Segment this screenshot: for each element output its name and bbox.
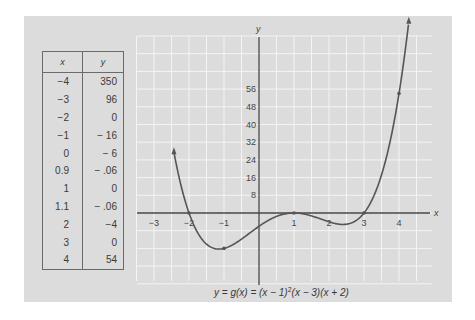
x-axis-label: x (433, 208, 439, 218)
caption-lhs: y = g(x) = (x − 1) (214, 287, 288, 298)
data-point (397, 92, 401, 96)
data-point (362, 211, 366, 215)
x-tick-label: −1 (219, 218, 229, 228)
y-tick-label: 56 (246, 84, 256, 94)
y-tick-label: 24 (246, 155, 256, 165)
y-tick-label: 48 (246, 102, 256, 112)
data-point (292, 211, 296, 215)
curve-arrow-left-icon (171, 147, 176, 154)
x-tick-label: 3 (361, 218, 366, 228)
function-curve (174, 25, 409, 249)
data-point (187, 211, 191, 215)
x-tick-label: 4 (396, 218, 401, 228)
curve-arrow-right-icon (406, 17, 411, 24)
y-tick-label: 8 (251, 190, 256, 200)
y-tick-label: 16 (246, 173, 256, 183)
x-tick-label: 1 (291, 218, 296, 228)
data-point (222, 247, 226, 251)
y-tick-label: 32 (246, 137, 256, 147)
x-tick-label: −3 (149, 218, 159, 228)
y-axis-label: y (255, 24, 261, 34)
y-tick-label: 40 (246, 120, 256, 130)
function-graph: xy−3−2−112348162432404856 (0, 0, 475, 320)
caption-rhs: (x − 3)(x + 2) (292, 287, 349, 298)
function-caption: y = g(x) = (x − 1)2(x − 3)(x + 2) (214, 286, 349, 298)
